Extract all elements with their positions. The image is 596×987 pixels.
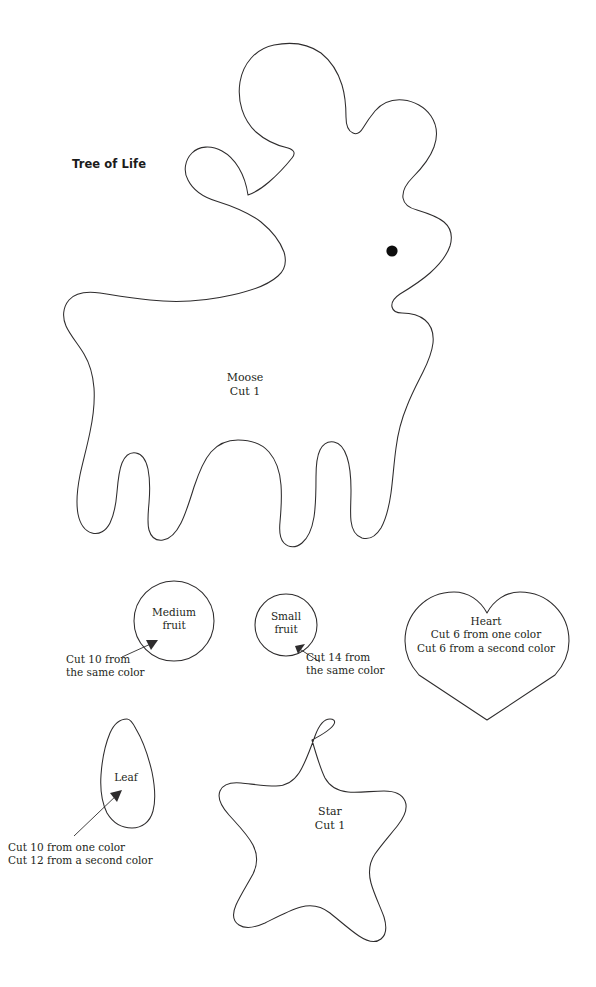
- heart-outline: [405, 592, 569, 720]
- pattern-page: Tree of Life Moose Cut 1 Medium fruit Cu…: [0, 0, 596, 987]
- leaf-caption: Cut 10 from one color Cut 12 from a seco…: [8, 841, 158, 868]
- small-fruit-label: Small fruit: [256, 610, 316, 637]
- moose-label: Moose Cut 1: [172, 371, 318, 399]
- leaf-label: Leaf: [102, 771, 150, 784]
- moose-eye-icon: [386, 245, 397, 256]
- small-fruit-caption: Cut 14 from the same color: [306, 651, 404, 678]
- star-label: Star Cut 1: [292, 805, 368, 833]
- pattern-sheet-graphics: [0, 0, 596, 987]
- medium-fruit-caption: Cut 10 from the same color: [66, 653, 172, 680]
- medium-fruit-label: Medium fruit: [134, 606, 214, 633]
- moose-outline: [64, 44, 452, 547]
- heart-label: Heart Cut 6 from one color Cut 6 from a …: [398, 615, 574, 655]
- page-title: Tree of Life: [72, 157, 146, 172]
